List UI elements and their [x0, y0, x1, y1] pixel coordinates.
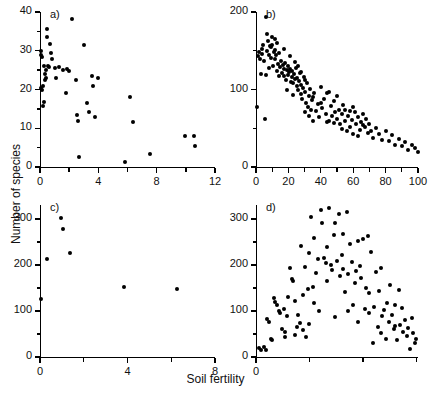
data-point	[260, 52, 264, 56]
data-point	[367, 122, 371, 126]
data-point	[299, 244, 303, 248]
data-point	[392, 327, 396, 331]
data-point	[327, 206, 331, 210]
data-point	[410, 316, 414, 320]
data-point	[304, 335, 308, 339]
x-axis-tick-label: 100	[398, 175, 431, 187]
x-axis-minor-tick	[83, 358, 84, 362]
data-point	[348, 242, 352, 246]
data-point	[288, 266, 292, 270]
y-axis-tick	[251, 310, 256, 311]
data-point	[408, 347, 412, 351]
data-point	[341, 232, 345, 236]
data-point	[47, 65, 51, 69]
data-point	[387, 320, 391, 324]
y-axis-tick-label: 100	[0, 303, 32, 315]
data-point	[270, 35, 274, 39]
data-point	[303, 78, 307, 82]
data-point	[293, 299, 297, 303]
data-point	[397, 288, 401, 292]
data-point	[45, 27, 49, 31]
data-point	[41, 104, 45, 108]
y-axis-tick-label: 300	[0, 211, 32, 223]
data-point	[338, 122, 342, 126]
data-point	[366, 234, 370, 238]
data-point	[364, 117, 368, 121]
data-point	[398, 323, 402, 327]
data-point	[50, 57, 54, 61]
panel-a: a)01020304004812	[40, 12, 215, 167]
y-axis-tick-label: 0	[0, 159, 32, 171]
x-axis-minor-tick	[171, 358, 172, 362]
data-point	[332, 121, 336, 125]
data-point	[367, 311, 371, 315]
y-axis-tick	[35, 89, 40, 90]
y-axis-tick-label: 0	[0, 349, 32, 361]
data-point	[175, 287, 179, 291]
data-point	[356, 320, 360, 324]
data-point	[275, 41, 279, 45]
data-point	[371, 341, 375, 345]
data-point	[295, 325, 299, 329]
data-point	[301, 328, 305, 332]
data-point	[335, 94, 339, 98]
data-point	[148, 152, 152, 156]
data-point	[284, 78, 288, 82]
data-point	[416, 150, 420, 154]
x-axis-tick	[320, 168, 321, 173]
y-axis-tick-label: 200	[210, 4, 248, 16]
data-point	[343, 290, 347, 294]
data-point	[306, 287, 310, 291]
data-point	[405, 334, 409, 338]
data-point	[262, 59, 266, 63]
data-point	[270, 43, 274, 47]
data-point	[277, 51, 281, 55]
data-point	[393, 303, 397, 307]
data-point	[346, 272, 350, 276]
data-point	[385, 301, 389, 305]
y-axis-minor-tick	[253, 287, 256, 288]
y-axis-minor-tick	[253, 241, 256, 242]
x-axis-minor-tick	[401, 168, 402, 172]
data-point	[264, 348, 268, 352]
data-point	[379, 331, 383, 335]
data-point	[70, 17, 74, 21]
panel-letter-label: c)	[50, 201, 59, 213]
data-point	[85, 101, 89, 105]
data-point	[303, 90, 307, 94]
x-axis-tick-label: 8	[137, 175, 177, 187]
data-point	[309, 108, 313, 112]
data-point	[382, 308, 386, 312]
data-point	[372, 305, 376, 309]
x-axis-tick	[255, 168, 256, 173]
data-point	[353, 110, 357, 114]
x-axis-tick	[385, 168, 386, 173]
y-axis-tick-label: 30	[0, 43, 32, 55]
data-point	[376, 325, 380, 329]
data-point	[322, 256, 326, 260]
data-point	[312, 301, 316, 305]
data-point	[351, 303, 355, 307]
data-point	[354, 269, 358, 273]
data-point	[319, 208, 323, 212]
y-axis-tick	[251, 264, 256, 265]
data-point	[397, 137, 401, 141]
panel-c: c)0100200300048	[40, 205, 215, 357]
y-axis-minor-tick	[253, 128, 256, 129]
data-point	[285, 314, 289, 318]
y-axis-tick	[251, 89, 256, 90]
y-axis-tick-label: 40	[0, 4, 32, 16]
x-axis-minor-tick	[362, 358, 363, 362]
data-point	[340, 127, 344, 131]
data-point	[67, 69, 71, 73]
data-point	[356, 115, 360, 119]
data-point	[351, 105, 355, 109]
data-point	[345, 210, 349, 214]
x-axis-minor-tick	[68, 168, 69, 172]
data-point	[358, 264, 362, 268]
y-axis-line	[40, 12, 41, 167]
data-point	[269, 56, 273, 60]
data-point	[93, 115, 97, 119]
data-point	[270, 338, 274, 342]
panel-letter-label: a)	[50, 8, 60, 20]
